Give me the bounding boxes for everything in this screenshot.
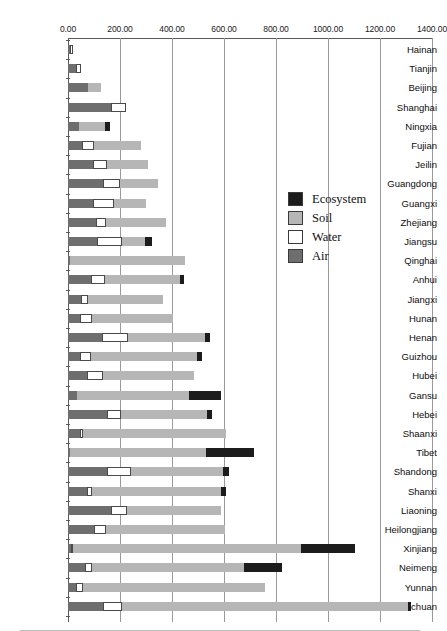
bar-segment-ecosystem[interactable]	[206, 448, 254, 457]
stacked-bar[interactable]	[68, 64, 81, 73]
stacked-bar[interactable]	[68, 467, 229, 476]
stacked-bar[interactable]	[68, 160, 148, 169]
bar-segment-soil[interactable]	[114, 199, 146, 208]
bar-segment-air[interactable]	[68, 525, 94, 534]
bar-segment-water[interactable]	[85, 563, 92, 572]
stacked-bar[interactable]	[68, 583, 265, 592]
bar-segment-soil[interactable]	[106, 525, 225, 534]
bar-segment-soil[interactable]	[77, 391, 189, 400]
bar-segment-soil[interactable]	[79, 122, 105, 131]
bar-segment-water[interactable]	[91, 275, 105, 284]
bar-segment-air[interactable]	[68, 314, 80, 323]
bar-segment-air[interactable]	[68, 64, 76, 73]
stacked-bar[interactable]	[68, 45, 73, 54]
bar-segment-ecosystem[interactable]	[221, 487, 226, 496]
bar-segment-water[interactable]	[82, 141, 94, 150]
stacked-bar[interactable]	[68, 218, 166, 227]
bar-segment-soil[interactable]	[92, 563, 244, 572]
stacked-bar[interactable]	[68, 506, 221, 515]
stacked-bar[interactable]	[68, 122, 110, 131]
stacked-bar[interactable]	[68, 179, 158, 188]
stacked-bar[interactable]	[68, 429, 226, 438]
bar-segment-ecosystem[interactable]	[189, 391, 221, 400]
bar-segment-soil[interactable]	[88, 295, 163, 304]
bar-segment-soil[interactable]	[88, 83, 101, 92]
bar-segment-soil[interactable]	[92, 314, 173, 323]
stacked-bar[interactable]	[68, 295, 163, 304]
stacked-bar[interactable]	[68, 352, 202, 361]
bar-segment-water[interactable]	[103, 179, 120, 188]
bar-segment-air[interactable]	[68, 199, 93, 208]
bar-segment-water[interactable]	[93, 160, 107, 169]
stacked-bar[interactable]	[68, 448, 254, 457]
bar-segment-water[interactable]	[103, 602, 122, 611]
bar-segment-soil[interactable]	[92, 487, 221, 496]
bar-segment-ecosystem[interactable]	[197, 352, 202, 361]
bar-segment-air[interactable]	[68, 333, 102, 342]
bar-segment-air[interactable]	[68, 179, 103, 188]
bar-segment-air[interactable]	[68, 275, 91, 284]
bar-segment-ecosystem[interactable]	[207, 410, 212, 419]
stacked-bar[interactable]	[68, 83, 101, 92]
bar-segment-soil[interactable]	[70, 448, 206, 457]
bar-segment-water[interactable]	[76, 583, 83, 592]
bar-segment-water[interactable]	[111, 103, 126, 112]
bar-segment-air[interactable]	[68, 467, 107, 476]
bar-segment-soil[interactable]	[70, 256, 185, 265]
bar-segment-air[interactable]	[68, 83, 88, 92]
bar-segment-air[interactable]	[68, 506, 111, 515]
bar-segment-ecosystem[interactable]	[205, 333, 210, 342]
bar-segment-water[interactable]	[87, 371, 103, 380]
bar-segment-ecosystem[interactable]	[145, 237, 152, 246]
stacked-bar[interactable]	[68, 525, 225, 534]
stacked-bar[interactable]	[68, 487, 226, 496]
bar-segment-soil[interactable]	[120, 179, 158, 188]
bar-segment-air[interactable]	[68, 103, 111, 112]
bar-segment-air[interactable]	[68, 160, 93, 169]
bar-segment-air[interactable]	[68, 352, 80, 361]
stacked-bar[interactable]	[68, 237, 152, 246]
bar-segment-soil[interactable]	[122, 237, 145, 246]
bar-segment-air[interactable]	[68, 295, 81, 304]
stacked-bar[interactable]	[68, 141, 141, 150]
stacked-bar[interactable]	[68, 256, 185, 265]
bar-segment-soil[interactable]	[83, 583, 265, 592]
bar-segment-soil[interactable]	[122, 602, 407, 611]
bar-segment-water[interactable]	[81, 295, 88, 304]
bar-segment-air[interactable]	[68, 371, 87, 380]
bar-segment-soil[interactable]	[91, 352, 197, 361]
bar-segment-water[interactable]	[80, 314, 92, 323]
bar-segment-air[interactable]	[68, 583, 76, 592]
stacked-bar[interactable]	[68, 410, 212, 419]
bar-segment-water[interactable]	[107, 467, 131, 476]
bar-segment-air[interactable]	[68, 563, 85, 572]
bar-segment-water[interactable]	[76, 64, 81, 73]
bar-segment-ecosystem[interactable]	[244, 563, 282, 572]
bar-segment-soil[interactable]	[73, 544, 301, 553]
bar-segment-water[interactable]	[102, 333, 128, 342]
bar-segment-soil[interactable]	[127, 506, 221, 515]
bar-segment-air[interactable]	[68, 429, 80, 438]
bar-segment-ecosystem[interactable]	[105, 122, 110, 131]
stacked-bar[interactable]	[68, 199, 146, 208]
bar-segment-soil[interactable]	[83, 429, 226, 438]
bar-segment-water[interactable]	[97, 237, 122, 246]
bar-segment-soil[interactable]	[105, 275, 180, 284]
stacked-bar[interactable]	[68, 314, 173, 323]
stacked-bar[interactable]	[68, 544, 355, 553]
bar-segment-ecosystem[interactable]	[223, 467, 229, 476]
bar-segment-water[interactable]	[107, 410, 121, 419]
bar-segment-soil[interactable]	[103, 371, 194, 380]
bar-segment-soil[interactable]	[94, 141, 141, 150]
stacked-bar[interactable]	[68, 563, 282, 572]
bar-segment-air[interactable]	[68, 410, 107, 419]
bar-segment-ecosystem[interactable]	[408, 602, 412, 611]
bar-segment-water[interactable]	[70, 45, 73, 54]
bar-segment-air[interactable]	[68, 218, 96, 227]
stacked-bar[interactable]	[68, 391, 221, 400]
bar-segment-ecosystem[interactable]	[180, 275, 184, 284]
stacked-bar[interactable]	[68, 602, 411, 611]
bar-segment-water[interactable]	[111, 506, 127, 515]
stacked-bar[interactable]	[68, 275, 184, 284]
bar-segment-soil[interactable]	[128, 333, 205, 342]
